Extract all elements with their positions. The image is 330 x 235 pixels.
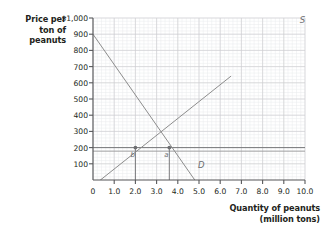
y-tick-label: 500 <box>40 95 88 104</box>
y-tick-label: $1,000 <box>40 14 88 23</box>
y-tick-label: 300 <box>40 127 88 136</box>
y-tick-label: 700 <box>40 62 88 71</box>
y-tick-label: 200 <box>40 143 88 152</box>
y-tick-label: 600 <box>40 78 88 87</box>
x-axis-title: Quantity of peanuts (million tons) <box>150 203 320 224</box>
x-tick-label: 8.0 <box>257 187 269 196</box>
x-axis-title-line-1: Quantity of peanuts <box>150 203 320 214</box>
y-tick-label: 400 <box>40 111 88 120</box>
y-tick-label: 100 <box>40 159 88 168</box>
x-tick-label: 1.0 <box>108 187 120 196</box>
x-tick-label: 10.0 <box>297 187 314 196</box>
y-tick-label: 900 <box>40 30 88 39</box>
x-tick-label: 0 <box>91 187 96 196</box>
supply-curve-label: S <box>300 15 305 25</box>
supply-demand-chart-figure: Price per ton of peanuts Quantity of pea… <box>0 0 330 235</box>
demand-curve-label: D <box>198 160 205 170</box>
y-tick-label: 800 <box>40 46 88 55</box>
x-tick-label: 4.0 <box>172 187 184 196</box>
x-tick-label: 3.0 <box>151 187 163 196</box>
x-tick-label: 2.0 <box>129 187 141 196</box>
x-tick-label: 7.0 <box>235 187 247 196</box>
quantity-demanded-marker-label: a <box>164 151 168 159</box>
x-tick-label: 9.0 <box>278 187 290 196</box>
quantity-supplied-marker-label: b <box>130 151 134 159</box>
x-tick-label: 6.0 <box>214 187 226 196</box>
x-axis-title-line-2: (million tons) <box>150 214 320 225</box>
x-tick-label: 5.0 <box>193 187 205 196</box>
